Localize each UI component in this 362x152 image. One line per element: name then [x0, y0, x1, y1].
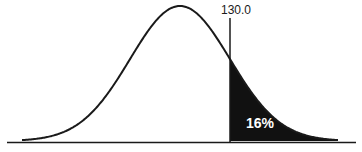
distribution-plot: [0, 0, 362, 152]
cutoff-value-label: 130.0: [221, 3, 251, 17]
bell-curve: [22, 6, 338, 140]
shaded-percent-label: 16%: [246, 115, 274, 131]
normal-distribution-figure: 130.0 16%: [0, 0, 362, 152]
